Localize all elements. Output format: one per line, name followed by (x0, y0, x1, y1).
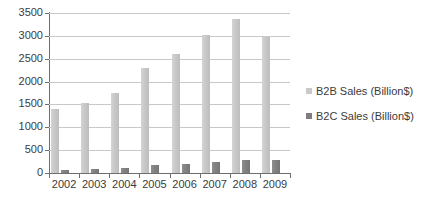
bar-group (170, 13, 200, 173)
y-axis-labels: 0500100015002000250030003500 (0, 0, 43, 203)
bar-group (109, 13, 139, 173)
bar-group (200, 13, 230, 173)
bar[interactable] (272, 160, 280, 173)
x-axis-tick (170, 174, 171, 178)
legend-item[interactable]: B2B Sales (Billion$) (306, 82, 424, 100)
x-axis-tick-label: 2006 (170, 178, 200, 191)
chart-legend: B2B Sales (Billion$)B2C Sales (Billion$) (306, 82, 424, 132)
y-axis-tick-label: 2500 (3, 53, 43, 64)
x-axis-tick-label: 2004 (109, 178, 139, 191)
x-axis-tick-label: 2003 (79, 178, 109, 191)
x-axis-tick (139, 174, 140, 178)
x-axis-tick-label: 2009 (260, 178, 290, 191)
bar-group (260, 13, 290, 173)
legend-swatch-icon (306, 113, 312, 119)
legend-label: B2B Sales (Billion$) (316, 85, 413, 97)
bar[interactable] (182, 164, 190, 173)
x-axis-tick-label: 2005 (139, 178, 169, 191)
y-axis-tick-label: 500 (3, 144, 43, 155)
y-axis-tick (45, 104, 49, 105)
bar[interactable] (242, 160, 250, 173)
y-axis-tick (45, 59, 49, 60)
plot-area (49, 13, 290, 173)
y-axis-tick-label: 3000 (3, 30, 43, 41)
x-axis-tick (230, 174, 231, 178)
x-axis-tick-label: 2007 (200, 178, 230, 191)
x-axis-tick (109, 174, 110, 178)
bar[interactable] (121, 168, 129, 173)
bar[interactable] (232, 19, 240, 173)
legend-label: B2C Sales (Billion$) (316, 110, 414, 122)
bar[interactable] (202, 35, 210, 173)
legend-swatch-icon (306, 88, 312, 94)
bar[interactable] (91, 169, 99, 173)
y-axis-tick (45, 127, 49, 128)
bar[interactable] (111, 93, 119, 173)
bar-group (49, 13, 79, 173)
x-axis-tick (290, 174, 291, 178)
bar[interactable] (262, 37, 270, 173)
bar-chart: 0500100015002000250030003500 20022003200… (0, 0, 427, 203)
x-axis-tick (79, 174, 80, 178)
bar-group (230, 13, 260, 173)
x-axis-tick (260, 174, 261, 178)
x-axis-tick (49, 174, 50, 178)
x-axis-tick-label: 2002 (49, 178, 79, 191)
y-axis-tick (45, 13, 49, 14)
bar[interactable] (81, 103, 89, 173)
y-axis-tick (45, 82, 49, 83)
bar[interactable] (51, 109, 59, 173)
x-axis-labels: 20022003200420052006200720082009 (49, 178, 290, 196)
y-axis-tick-label: 2000 (3, 76, 43, 87)
bar[interactable] (151, 165, 159, 173)
bar[interactable] (212, 162, 220, 173)
bar[interactable] (172, 54, 180, 173)
x-axis-tick-label: 2008 (230, 178, 260, 191)
bar[interactable] (141, 68, 149, 173)
x-axis-tick (200, 174, 201, 178)
y-axis-tick (45, 36, 49, 37)
y-axis-tick-label: 3500 (3, 7, 43, 18)
bar[interactable] (61, 170, 69, 173)
y-axis-tick-label: 1500 (3, 98, 43, 109)
bar-group (139, 13, 169, 173)
y-axis-tick-label: 1000 (3, 121, 43, 132)
y-axis-tick (45, 150, 49, 151)
legend-item[interactable]: B2C Sales (Billion$) (306, 107, 424, 125)
bar-group (79, 13, 109, 173)
y-axis-tick-label: 0 (3, 167, 43, 178)
